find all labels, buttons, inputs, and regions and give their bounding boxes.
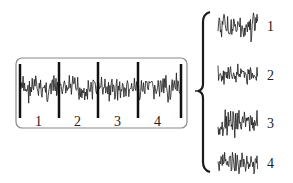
separated-label-3: 3: [267, 116, 274, 131]
separated-segment-2-waveform: [218, 64, 258, 85]
separated-segment-3-waveform: [218, 110, 258, 138]
curly-brace-icon: [198, 12, 210, 172]
segment-label-3: 3: [114, 114, 121, 129]
separated-label-1: 1: [267, 19, 274, 34]
separated-segment-1-waveform: [218, 13, 258, 42]
segment-label-2: 2: [74, 114, 81, 129]
separated-segment-4-waveform: [218, 152, 258, 174]
separated-label-4: 4: [267, 156, 274, 171]
continuous-signal-waveform: [21, 73, 180, 103]
segment-label-4: 4: [154, 114, 161, 129]
segment-label-1: 1: [35, 114, 42, 129]
diagram-canvas: 1 2 3 4 1 2 3 4: [0, 0, 293, 183]
separated-label-2: 2: [267, 68, 274, 83]
